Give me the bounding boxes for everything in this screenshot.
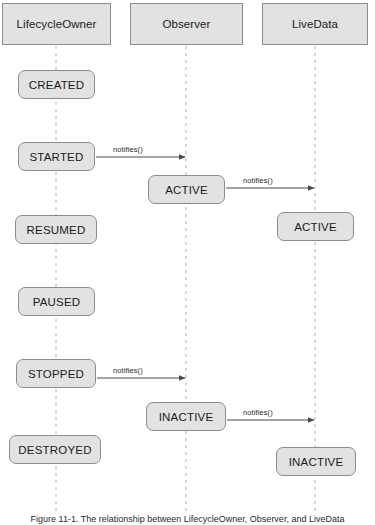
state-box-paused[interactable]: PAUSED <box>18 287 95 316</box>
state-box-livedata-inactive[interactable]: INACTIVE <box>276 447 356 476</box>
actor-header-lifecycleowner[interactable]: LifecycleOwner <box>2 3 111 45</box>
state-box-label: STOPPED <box>28 368 84 380</box>
actor-header-label: LiveData <box>292 18 338 30</box>
message-label-stopped-observer: notifies() <box>113 366 143 375</box>
state-box-started[interactable]: STARTED <box>18 142 95 171</box>
state-box-label: ACTIVE <box>294 221 337 233</box>
message-label-started-observer: notifies() <box>113 145 143 154</box>
state-box-stopped[interactable]: STOPPED <box>16 359 96 388</box>
actor-header-observer[interactable]: Observer <box>130 3 243 45</box>
state-box-label: DESTROYED <box>18 444 91 456</box>
figure-caption: Figure 11-1. The relationship between Li… <box>0 514 375 524</box>
message-label-inactive-livedata: notifies() <box>243 408 273 417</box>
actor-header-label: LifecycleOwner <box>16 18 96 30</box>
state-box-label: INACTIVE <box>159 411 214 423</box>
state-box-destroyed[interactable]: DESTROYED <box>9 435 101 464</box>
state-box-label: CREATED <box>29 79 85 91</box>
state-box-resumed[interactable]: RESUMED <box>15 215 97 244</box>
state-box-livedata-active[interactable]: ACTIVE <box>277 212 354 241</box>
sequence-diagram: LifecycleOwner Observer LiveData CREATED… <box>0 0 375 525</box>
state-box-label: INACTIVE <box>289 456 344 468</box>
state-box-label: STARTED <box>29 151 83 163</box>
message-label-observer-livedata: notifies() <box>243 176 273 185</box>
state-box-observer-inactive[interactable]: INACTIVE <box>146 402 226 431</box>
state-box-created[interactable]: CREATED <box>18 70 95 99</box>
state-box-label: ACTIVE <box>165 184 208 196</box>
actor-header-label: Observer <box>162 18 210 30</box>
actor-header-livedata[interactable]: LiveData <box>262 3 368 45</box>
state-box-observer-active[interactable]: ACTIVE <box>148 175 225 204</box>
state-box-label: PAUSED <box>33 296 81 308</box>
state-box-label: RESUMED <box>27 224 86 236</box>
